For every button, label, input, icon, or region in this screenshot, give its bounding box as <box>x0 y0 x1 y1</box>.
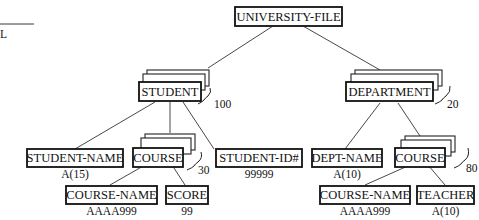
segment-student-course: COURSE 30 <box>133 134 210 176</box>
hierarchy-diagram: L UNIVERSITY-FILE STUDENT 100 DEPARTMENT… <box>0 0 479 220</box>
root-label: UNIVERSITY-FILE <box>236 10 341 24</box>
field-dept-name: DEPT-NAME A(10) <box>311 149 382 181</box>
segment-student-label: STUDENT <box>142 85 199 99</box>
root-node: UNIVERSITY-FILE <box>235 7 342 26</box>
field-student-course-name: COURSE-NAME AAAA999 <box>66 186 157 217</box>
segment-department-label: DEPARTMENT <box>348 85 430 99</box>
field-score: SCORE 99 <box>166 186 208 217</box>
segment-student-count: 100 <box>214 98 232 110</box>
field-dept-course-name-format: AAAA999 <box>340 205 391 217</box>
field-dept-name-label: DEPT-NAME <box>311 151 382 165</box>
margin-text: L <box>0 28 7 40</box>
segment-dept-course: COURSE 80 <box>395 136 478 174</box>
field-dept-course-name-label: COURSE-NAME <box>320 188 411 202</box>
field-dept-name-format: A(10) <box>333 168 361 181</box>
segment-student: STUDENT 100 <box>139 70 232 110</box>
field-teacher: TEACHER A(10) <box>417 186 475 218</box>
segment-dept-course-label: COURSE <box>395 151 445 165</box>
field-score-format: 99 <box>181 205 193 217</box>
field-score-label: SCORE <box>167 188 208 202</box>
field-student-course-name-label: COURSE-NAME <box>66 188 157 202</box>
field-student-name-label: STUDENT-NAME <box>27 151 124 165</box>
field-student-id: STUDENT-ID# 99999 <box>216 149 302 180</box>
field-student-id-format: 99999 <box>245 168 274 180</box>
field-student-course-name-format: AAAA999 <box>86 205 137 217</box>
field-dept-course-name: COURSE-NAME AAAA999 <box>320 186 411 217</box>
field-student-name: STUDENT-NAME A(15) <box>27 149 124 181</box>
segment-student-course-label: COURSE <box>133 151 183 165</box>
field-student-id-label: STUDENT-ID# <box>219 151 299 165</box>
segment-student-course-count: 30 <box>198 164 210 176</box>
field-student-name-format: A(15) <box>61 168 89 181</box>
field-teacher-label: TEACHER <box>417 188 475 202</box>
segment-department-count: 20 <box>447 98 459 110</box>
segment-dept-course-count: 80 <box>466 162 478 174</box>
field-teacher-format: A(10) <box>432 205 460 218</box>
segment-department: DEPARTMENT 20 <box>346 70 459 110</box>
